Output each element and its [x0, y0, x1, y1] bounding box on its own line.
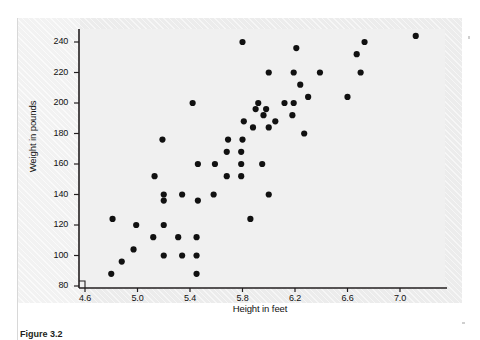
y-axis-title: Weight in pounds: [27, 77, 38, 197]
y-axis-tick-label: 240: [34, 36, 68, 46]
x-axis-tick-label: 7.0: [383, 293, 417, 303]
data-point: [263, 106, 269, 112]
data-point: [161, 191, 167, 197]
data-point: [281, 100, 287, 106]
data-point: [317, 69, 323, 75]
data-point: [150, 234, 156, 240]
y-axis-tick-label: 100: [34, 250, 68, 260]
data-point: [225, 137, 231, 143]
data-point: [108, 271, 114, 277]
data-point: [224, 173, 230, 179]
x-axis-tick-label: 5.8: [226, 293, 260, 303]
data-point: [361, 39, 367, 45]
x-axis-tick-label: 5.4: [173, 293, 207, 303]
data-point: [193, 271, 199, 277]
figure-caption: Figure 3.2: [20, 329, 63, 340]
data-point: [161, 222, 167, 228]
data-point: [297, 82, 303, 88]
data-point: [195, 161, 201, 167]
data-point: [291, 100, 297, 106]
data-point: [238, 173, 244, 179]
x-axis-tick-label: 5.0: [121, 293, 155, 303]
y-axis-tick-label: 160: [34, 158, 68, 168]
data-point: [151, 173, 157, 179]
y-axis-tick-label: 140: [34, 189, 68, 199]
x-axis-tick-label: 6.6: [331, 293, 365, 303]
data-point: [253, 106, 259, 112]
data-point: [161, 252, 167, 258]
data-point: [305, 94, 311, 100]
data-point: [179, 252, 185, 258]
data-point: [161, 198, 167, 204]
scatter-plot: [0, 0, 480, 340]
data-point: [238, 161, 244, 167]
data-point: [130, 246, 136, 252]
data-point: [212, 161, 218, 167]
data-point: [413, 33, 419, 39]
data-point: [159, 137, 165, 143]
data-point: [259, 161, 265, 167]
data-point: [291, 69, 297, 75]
data-point: [301, 130, 307, 136]
data-point: [119, 259, 125, 265]
data-point: [272, 118, 278, 124]
data-point: [190, 100, 196, 106]
data-point: [109, 216, 115, 222]
data-point: [239, 39, 245, 45]
data-point: [266, 124, 272, 130]
data-point: [289, 112, 295, 118]
data-point: [195, 198, 201, 204]
data-point: [247, 216, 253, 222]
data-point: [354, 51, 360, 57]
y-axis-tick-label: 220: [34, 67, 68, 77]
data-point: [241, 118, 247, 124]
data-point: [266, 191, 272, 197]
x-axis-title: Height in feet: [180, 303, 340, 314]
data-point: [344, 94, 350, 100]
y-axis-tick-label: 120: [34, 219, 68, 229]
data-point: [238, 149, 244, 155]
y-axis-tick-label: 200: [34, 97, 68, 107]
x-axis-tick-label: 4.6: [68, 293, 102, 303]
data-point: [239, 137, 245, 143]
y-axis-tick-label: 80: [34, 280, 68, 290]
axis-origin-break: [79, 281, 85, 288]
data-point: [260, 112, 266, 118]
data-point: [175, 234, 181, 240]
data-point: [193, 252, 199, 258]
y-axis-tick-label: 180: [34, 128, 68, 138]
data-point: [358, 69, 364, 75]
data-point: [224, 149, 230, 155]
data-point: [293, 45, 299, 51]
data-point: [266, 69, 272, 75]
data-point: [211, 191, 217, 197]
figure-root: 80100120140160180200220240 4.65.05.45.86…: [0, 0, 480, 340]
page-speck: [462, 322, 465, 324]
data-point: [193, 234, 199, 240]
data-point: [179, 191, 185, 197]
data-point: [250, 124, 256, 130]
x-axis-tick-label: 6.2: [278, 293, 312, 303]
data-point: [255, 100, 261, 106]
page-speck: [468, 36, 470, 39]
data-point-layer: [108, 33, 419, 277]
data-point: [133, 222, 139, 228]
